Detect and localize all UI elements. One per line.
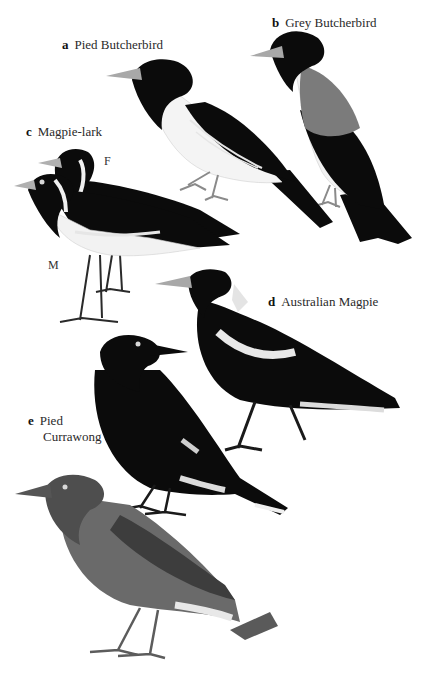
bird-plate: aPied Butcherbird bGrey Butcherbird cMag…: [0, 0, 429, 674]
illustrations: [0, 0, 429, 674]
grey-butcherbird-illustration: [250, 31, 412, 244]
grey-currawong-illustration: [15, 475, 278, 658]
